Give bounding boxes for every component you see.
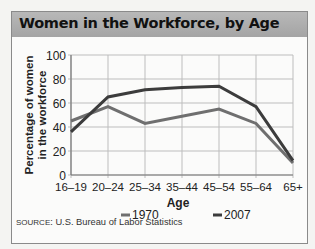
y-tick-label: 100 xyxy=(46,49,66,63)
source-prefix: SOURCE xyxy=(16,218,50,227)
x-tick-label: 35–44 xyxy=(166,181,199,193)
legend-label-2007: 2007 xyxy=(224,208,251,222)
x-tick-label: 20–24 xyxy=(92,181,125,193)
x-tick-label: 25–34 xyxy=(129,181,162,193)
line-chart: 02040608010016–1920–2425–3435–4445–5455–… xyxy=(0,0,315,249)
x-axis-title: Age xyxy=(167,196,190,210)
source-text: : U.S. Bureau of Labor Statistics xyxy=(50,217,182,227)
x-tick-label: 45–54 xyxy=(203,181,236,193)
x-tick-label: 16–19 xyxy=(55,181,87,193)
y-axis-title: Percentage of womenin the workforce xyxy=(23,56,48,175)
x-tick-label: 65+ xyxy=(283,181,303,193)
y-tick-label: 20 xyxy=(53,145,67,159)
y-tick-label: 40 xyxy=(53,121,67,135)
x-tick-label: 55–64 xyxy=(240,181,273,193)
y-tick-label: 60 xyxy=(53,97,67,111)
source-note: SOURCE: U.S. Bureau of Labor Statistics xyxy=(16,217,183,227)
y-tick-label: 80 xyxy=(53,73,67,87)
